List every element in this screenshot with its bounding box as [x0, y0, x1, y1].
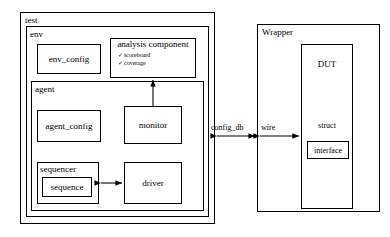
block-interface-label: interface: [307, 141, 349, 159]
block-dut-label: DUT: [301, 60, 353, 69]
block-struct-label: struct: [301, 122, 353, 130]
block-agent-config-label: agent_config: [37, 110, 101, 142]
container-test-label: test: [25, 16, 38, 25]
analysis-component-item-label: coverage: [124, 60, 146, 66]
diagram-canvas: test env agent env_config analysis compo…: [0, 0, 390, 237]
analysis-component-item-list: ✓scoreboard ✓coverage: [118, 51, 150, 67]
analysis-component-item-label: scoreboard: [124, 52, 150, 58]
connector-wire-label: wire: [261, 124, 275, 132]
container-wrapper-label: Wrapper: [262, 28, 293, 37]
container-agent-label: agent: [35, 85, 55, 94]
block-analysis-component-label: analysis component: [110, 40, 196, 49]
block-driver-label: driver: [124, 162, 182, 204]
block-sequencer-label: sequencer: [40, 165, 76, 174]
analysis-component-item: ✓scoreboard: [118, 51, 150, 59]
block-env-config-label: env_config: [37, 44, 101, 74]
connector-config-db-label: config_db: [211, 124, 243, 132]
analysis-component-item: ✓coverage: [118, 59, 150, 67]
block-sequence-label: sequence: [42, 177, 92, 197]
block-monitor-label: monitor: [124, 106, 182, 144]
container-env-label: env: [30, 30, 43, 39]
